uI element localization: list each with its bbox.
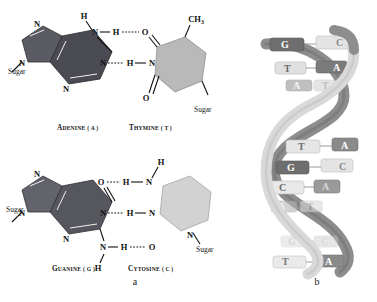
guanine-sugar-label: Sugar bbox=[6, 205, 24, 214]
bond-atom-n-g3: N bbox=[100, 242, 107, 252]
base-letter-right: C bbox=[321, 236, 328, 247]
base-letter-right: A bbox=[325, 256, 333, 267]
double-helix-diagram: .bl{font-family:"Liberation Serif",serif… bbox=[248, 0, 377, 302]
base-letter-right: A bbox=[333, 62, 341, 73]
base-letter-right: T bbox=[307, 201, 314, 212]
bond-atom-n-g2: N bbox=[100, 208, 107, 218]
cytosine-atom-n1: N bbox=[187, 230, 194, 240]
adenine-atom-n1: N bbox=[63, 84, 70, 94]
guanine-atom-n3: N bbox=[63, 234, 70, 244]
bond-atom-h-top: H bbox=[81, 11, 88, 21]
bond-atom-h-upper: H bbox=[113, 27, 120, 37]
thymine-atom-o2: O bbox=[143, 93, 150, 103]
base-pair-row: T A bbox=[275, 61, 347, 74]
base-letter-right: A bbox=[322, 181, 330, 192]
base-pair-row: C A bbox=[268, 180, 340, 194]
bond-atom-o-g: O bbox=[98, 177, 105, 187]
bond-atom-o-upper: O bbox=[142, 27, 149, 37]
adenine-sugar-label: Sugar bbox=[8, 67, 26, 76]
base-pair-diagram: .at{font-family:"Liberation Serif",serif… bbox=[0, 0, 248, 302]
base-letter-right: A bbox=[341, 140, 349, 151]
bond-atom-h-amine-c: H bbox=[158, 157, 165, 167]
base-letter-left: G bbox=[281, 39, 289, 50]
bond-atom-n-ring: N bbox=[100, 58, 107, 68]
subfigure-label-a: a bbox=[123, 276, 147, 287]
thymine-name-label: THYMINE ( T ) bbox=[129, 124, 172, 132]
bond-atom-n-c2: N bbox=[149, 208, 156, 218]
bond-atom-h-below: H bbox=[95, 263, 102, 273]
thymine-methyl-label: CH3 bbox=[188, 14, 204, 25]
bond-atom-h-g1: H bbox=[123, 177, 130, 187]
bond-atom-n-amine: N bbox=[92, 27, 99, 37]
bond-atom-h-lower: H bbox=[127, 58, 134, 68]
thymine-sugar-bond bbox=[202, 81, 208, 95]
cytosine-molecule: N bbox=[160, 176, 211, 244]
base-letter-left: T bbox=[298, 141, 305, 152]
cytosine-sugar-bond bbox=[193, 233, 200, 244]
base-pair-row: G C bbox=[276, 159, 353, 174]
base-letter-left: G bbox=[287, 162, 295, 173]
panel-a-base-pairs: .at{font-family:"Liberation Serif",serif… bbox=[0, 0, 248, 302]
bond-atom-h-g2: H bbox=[127, 208, 134, 218]
base-letter-right: C bbox=[336, 37, 343, 48]
thymine-ring bbox=[155, 37, 206, 92]
bond-atom-n-thymine: N bbox=[149, 58, 156, 68]
bond-atom-n-c1: N bbox=[146, 177, 153, 187]
dna-base-pairing-figure: .at{font-family:"Liberation Serif",serif… bbox=[0, 0, 377, 302]
bond-atom-o-c: O bbox=[149, 242, 156, 252]
bond-atom-h-g3: H bbox=[121, 242, 128, 252]
adenine-atom-n7: N bbox=[34, 19, 41, 29]
thymine-sugar-label: Sugar bbox=[194, 105, 212, 114]
base-letter-right: C bbox=[339, 161, 346, 172]
cytosine-ring bbox=[160, 176, 211, 231]
adenine-name-label: ADENINE ( A ) bbox=[57, 124, 98, 132]
panel-b-double-helix: .bl{font-family:"Liberation Serif",serif… bbox=[248, 0, 377, 302]
base-letter-left: C bbox=[279, 182, 286, 193]
base-pair-row: T A bbox=[286, 138, 358, 153]
guanine-atom-n7: N bbox=[34, 169, 41, 179]
base-letter-left: T bbox=[282, 256, 289, 267]
subfigure-label-b: b bbox=[305, 276, 329, 287]
cytosine-name-label: CYTOSINE ( C ) bbox=[128, 265, 173, 273]
base-pair-row: T A bbox=[273, 255, 344, 268]
base-letter-left: T bbox=[284, 63, 291, 74]
cytosine-sugar-label: Sugar bbox=[196, 245, 214, 254]
base-letter-left: A bbox=[293, 80, 301, 91]
guanine-name-label: GUANINE ( G ) bbox=[52, 265, 95, 273]
guanine-cytosine-hydrogen-bonds: O H N H N H N N H H bbox=[95, 157, 165, 273]
